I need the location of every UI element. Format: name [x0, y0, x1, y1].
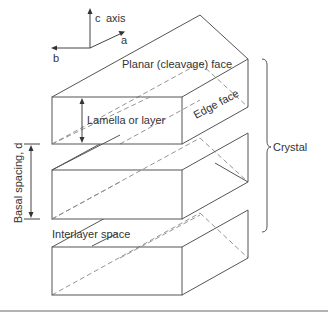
axis-indicator: c axis a b [51, 8, 128, 64]
b-axis-label: b [53, 52, 59, 64]
a-axis-label: a [121, 34, 128, 46]
interlayer-space-label: Interlayer space [52, 228, 130, 240]
crystal-diagram: c axis a b [0, 0, 328, 314]
crystal-label: Crystal [273, 141, 307, 153]
basal-arrow-down-icon [29, 212, 34, 218]
basal-spacing-label: Basal spacing, d [12, 143, 24, 224]
a-axis-line [90, 33, 122, 48]
lamella-label: Lamella or layer [87, 114, 166, 126]
basal-spacing-dimension: Basal spacing, d [12, 143, 40, 224]
basal-arrow-up-icon [29, 145, 34, 151]
bottom-layer [52, 210, 248, 295]
b-axis-arrow-icon [51, 46, 57, 51]
c-axis-arrow-icon [88, 8, 93, 14]
crystal-brace: Crystal [262, 59, 307, 232]
planar-face-label: Planar (cleavage) face [122, 58, 232, 70]
axis-word-label: axis [106, 12, 126, 24]
c-axis-label: c [95, 12, 101, 24]
